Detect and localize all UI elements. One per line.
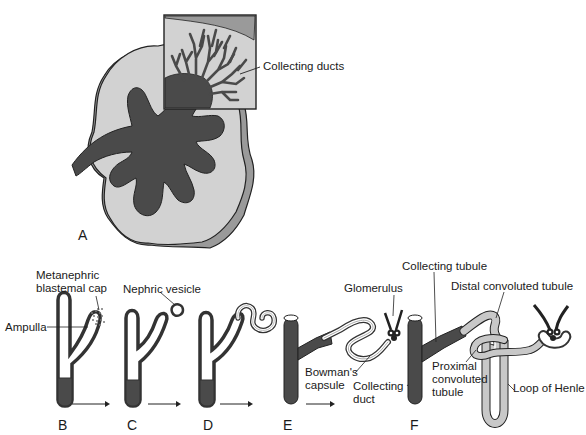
collecting-ducts-inset (164, 15, 260, 109)
panel-label-e: E (283, 417, 292, 433)
label-proximal-3: tubule (432, 386, 463, 398)
label-ampulla: Ampulla (5, 321, 47, 333)
kidney-illustration: Collecting ducts A (72, 15, 344, 248)
label-nephric-vesicle: Nephric vesicle (123, 283, 201, 295)
stage-c (126, 292, 183, 407)
label-collecting-ducts: Collecting ducts (263, 60, 344, 72)
panel-label-b: B (58, 417, 67, 433)
label-proximal-1: Proximal (432, 360, 477, 372)
label-glomerulus: Glomerulus (344, 282, 403, 294)
label-distal-convoluted-tubule: Distal convoluted tubule (451, 280, 573, 292)
glomerulus-e (385, 310, 402, 341)
label-metanephric-1: Metanephric (36, 269, 100, 281)
label-loop-of-henle: Loop of Henle (513, 382, 585, 394)
label-bowmans-1: Bowman's (305, 366, 358, 378)
label-proximal-2: convoluted (432, 373, 488, 385)
stage-b (47, 293, 110, 408)
panel-label-a: A (78, 227, 88, 243)
nephric-vesicle (172, 304, 183, 315)
label-collecting-duct-1: Collecting (353, 380, 404, 392)
panel-label-d: D (203, 417, 213, 433)
label-bowmans-2: capsule (305, 379, 345, 391)
label-collecting-tubule: Collecting tubule (402, 260, 487, 272)
panel-label-c: C (127, 417, 137, 433)
stage-d (200, 306, 274, 407)
kidney-development-diagram: Collecting ducts A Metanephric blastemal… (0, 0, 586, 435)
label-metanephric-2: blastemal cap (36, 282, 107, 294)
label-collecting-duct-2: duct (353, 393, 376, 405)
stage-f (408, 272, 570, 424)
panel-label-f: F (410, 417, 419, 433)
